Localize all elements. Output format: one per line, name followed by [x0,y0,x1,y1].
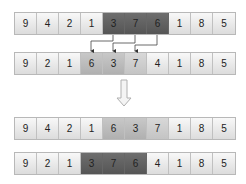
arrow-7-to-pos5 [113,35,135,51]
move-arrows [91,35,157,51]
arrows-overlay [0,0,246,184]
arrow-6-to-pos6 [135,35,157,51]
arrow-3-to-pos4 [91,35,113,51]
down-arrow-icon [117,80,131,106]
